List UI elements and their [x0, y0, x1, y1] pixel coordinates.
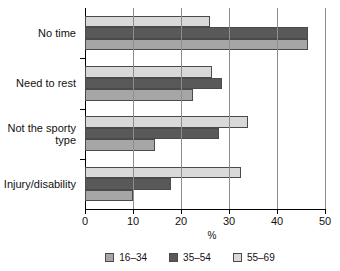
legend-swatch-icon — [233, 253, 242, 262]
x-axis-tick — [85, 210, 86, 214]
chart-legend: 16–3435–5455–69 — [0, 252, 340, 263]
bar — [85, 116, 248, 128]
bar — [85, 167, 241, 179]
bar — [85, 78, 222, 90]
gridline — [325, 8, 326, 209]
x-axis-tick — [181, 210, 182, 214]
gridline — [133, 8, 134, 209]
legend-label: 35–54 — [183, 252, 211, 263]
plot-area — [85, 8, 325, 209]
gridline — [181, 8, 182, 209]
legend-label: 55–69 — [247, 252, 275, 263]
x-axis-tick-label: 50 — [305, 215, 340, 227]
bar — [85, 27, 308, 39]
bar — [85, 128, 219, 140]
x-axis-tick — [277, 210, 278, 214]
category-label: No time — [0, 27, 76, 39]
x-axis-tick-label: 10 — [113, 215, 153, 227]
y-axis-tick — [80, 159, 85, 160]
category-label: Not the sporty type — [0, 122, 76, 146]
x-axis-tick — [229, 210, 230, 214]
x-axis-title: % — [0, 230, 340, 241]
bar — [85, 178, 171, 190]
legend-label: 16–34 — [119, 252, 147, 263]
legend-swatch-icon — [169, 253, 178, 262]
gridline — [229, 8, 230, 209]
bar — [85, 66, 212, 78]
x-axis-tick — [133, 210, 134, 214]
x-axis-title-text: % — [208, 230, 217, 241]
bar — [85, 139, 155, 151]
category-label: Need to rest — [0, 77, 76, 89]
y-axis-tick — [80, 109, 85, 110]
x-axis-tick-label: 40 — [257, 215, 297, 227]
bar-chart: 01020304050 No timeNeed to restNot the s… — [0, 0, 340, 271]
y-axis-tick — [80, 58, 85, 59]
x-axis-tick-label: 30 — [209, 215, 249, 227]
bar — [85, 39, 308, 51]
gridline — [277, 8, 278, 209]
bar — [85, 89, 193, 101]
x-axis-line — [85, 209, 326, 210]
x-axis-tick-label: 0 — [65, 215, 105, 227]
legend-item: 35–54 — [169, 252, 211, 263]
legend-swatch-icon — [105, 253, 114, 262]
x-axis-tick-label: 20 — [161, 215, 201, 227]
bar — [85, 16, 210, 28]
category-label: Injury/disability — [0, 178, 76, 190]
bar — [85, 190, 133, 202]
legend-item: 55–69 — [233, 252, 275, 263]
x-axis-tick — [325, 210, 326, 214]
legend-item: 16–34 — [105, 252, 147, 263]
